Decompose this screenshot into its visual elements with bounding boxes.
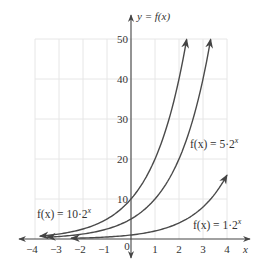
curve-label-10x2x: f(x) = 10·2x: [37, 206, 92, 221]
x-axis-label: x: [242, 243, 248, 255]
curve-label-1x2x: f(x) = 1·2x: [193, 217, 242, 232]
curve-10x2x: [40, 39, 187, 236]
x-tick-label: 4: [224, 243, 230, 255]
y-tick-label: 50: [117, 33, 129, 45]
x-tick-label: 1: [152, 243, 158, 255]
curve-label-5x2x: f(x) = 5·2x: [190, 136, 239, 151]
x-tick-label: −2: [74, 243, 86, 255]
x-tick-label: −1: [98, 243, 110, 255]
y-tick-label: 40: [117, 73, 129, 85]
x-tick-label: 2: [176, 243, 182, 255]
x-tick-label: −3: [50, 243, 62, 255]
x-tick-label: −4: [26, 243, 38, 255]
x-tick-label: 3: [200, 243, 206, 255]
exponential-functions-chart: −4−3−2−1012341020304050 y = f(x) x f(x) …: [0, 0, 260, 271]
y-axis-label: y = f(x): [136, 10, 170, 23]
x-tick-label: 0: [124, 240, 130, 252]
y-tick-label: 30: [117, 113, 129, 125]
y-tick-label: 20: [117, 153, 129, 165]
